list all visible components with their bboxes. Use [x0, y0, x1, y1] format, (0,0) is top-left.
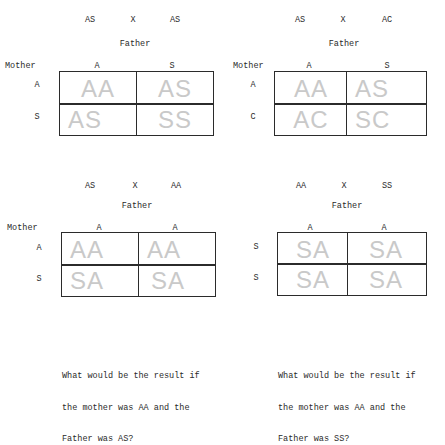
row-allele-2: C	[250, 112, 255, 122]
cross-father-genotype: AS	[170, 15, 180, 25]
row-allele-1: S	[253, 242, 258, 252]
grid-cell: AS	[349, 74, 425, 104]
mother-label: Mother	[233, 61, 264, 71]
question-line: the mother was AA and the	[62, 403, 200, 414]
row-allele-1: A	[34, 80, 39, 90]
column-allele-1: A	[94, 61, 99, 71]
row-allele-2: S	[34, 112, 39, 122]
cross-symbol: X	[341, 181, 346, 191]
mother-label: Mother	[7, 223, 38, 233]
grid-cell: SC	[349, 106, 425, 134]
mother-label: Mother	[5, 61, 36, 71]
grid-cell: SA	[350, 266, 422, 294]
grid-cell: AA	[141, 235, 219, 265]
father-label: Father	[329, 39, 360, 49]
row-allele-2: S	[253, 273, 258, 283]
grid-cell: SA	[280, 235, 346, 264]
grid-cell: AS	[62, 106, 140, 134]
cross-mother-genotype: AA	[296, 181, 306, 191]
grid-cell: SS	[139, 106, 211, 134]
cross-mother-genotype: AS	[85, 15, 95, 25]
row-allele-2: S	[36, 274, 41, 284]
cross-father-genotype: AC	[382, 15, 392, 25]
row-allele-1: A	[36, 243, 41, 253]
punnett-grid: SA SA SA SA	[277, 232, 427, 296]
cross-father-genotype: AA	[171, 181, 181, 191]
grid-cell: SA	[64, 267, 142, 295]
cross-symbol: X	[340, 15, 345, 25]
cross-mother-genotype: AS	[295, 15, 305, 25]
question-line: the mother was AA and the	[278, 403, 416, 414]
grid-cell: AA	[64, 235, 142, 265]
punnett-grid: AA AS AC SC	[274, 71, 427, 136]
row-allele-1: A	[250, 80, 255, 90]
question-line: Father was AS?	[62, 434, 200, 445]
question-line: What would be the result if	[278, 371, 416, 382]
punnett-grid: AA AS AS SS	[59, 71, 214, 136]
grid-cell: SA	[141, 267, 223, 295]
cross-mother-genotype: AS	[85, 181, 95, 191]
column-allele-1: A	[306, 61, 311, 71]
question-2: What would be the result if the mother w…	[278, 350, 416, 445]
cross-symbol: X	[130, 15, 135, 25]
father-label: Father	[122, 201, 153, 211]
grid-cell: AS	[139, 74, 211, 104]
father-label: Father	[120, 39, 151, 49]
father-label: Father	[332, 201, 363, 211]
cross-symbol: X	[132, 181, 137, 191]
punnett-grid: AA AA SA SA	[61, 232, 216, 297]
question-line: What would be the result if	[62, 371, 200, 382]
grid-cell: AC	[277, 106, 345, 134]
grid-cell: SA	[350, 235, 422, 264]
cross-father-genotype: SS	[382, 181, 392, 191]
column-allele-2: S	[384, 61, 389, 71]
column-allele-2: S	[169, 61, 174, 71]
grid-cell: SA	[280, 266, 346, 294]
grid-cell: AA	[277, 74, 345, 104]
question-line: Father was SS?	[278, 434, 416, 445]
question-1: What would be the result if the mother w…	[62, 350, 200, 445]
grid-cell: AA	[62, 74, 134, 104]
